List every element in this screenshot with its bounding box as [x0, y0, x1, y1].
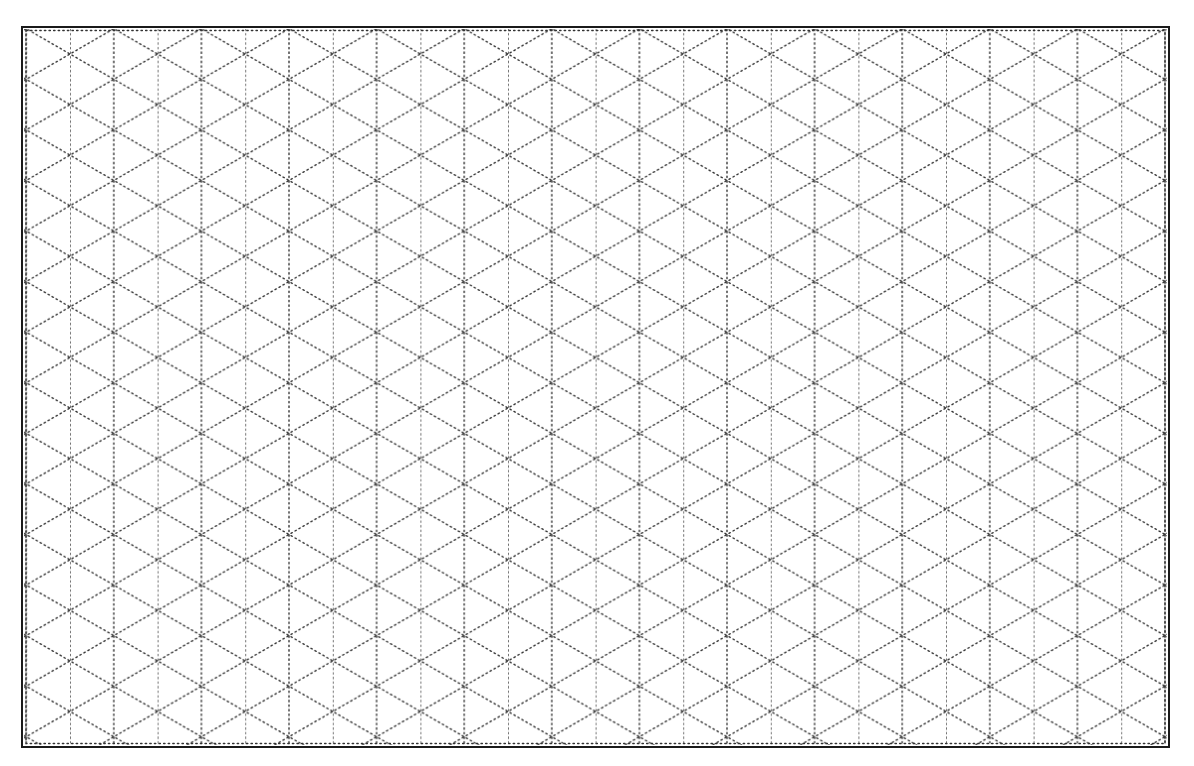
isometric-grid-sheet — [0, 0, 1194, 766]
grid-lines — [24, 29, 1167, 745]
